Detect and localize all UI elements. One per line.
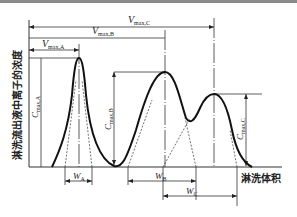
chromatogram-diagram: Vmax,C Vmax,B Vmax,A Cmax,A Cmax,B Cmax,… — [0, 0, 297, 217]
axes — [29, 20, 282, 167]
c-max-b-label: Cmax,B — [103, 108, 114, 130]
c-max-a-label: Cmax,A — [30, 95, 41, 118]
c-max-c-label: Cmax,C — [235, 118, 246, 140]
x-axis-label: 淋洗体积 — [241, 172, 281, 184]
w-a-label: WA — [73, 171, 86, 182]
elution-curve — [52, 58, 252, 167]
v-max-a-label: Vmax,A — [42, 38, 65, 50]
v-max-c-label: Vmax,C — [128, 14, 150, 26]
y-axis-label: 淋洗流出液中离子的浓度 — [11, 49, 23, 160]
w-dimensions — [65, 167, 237, 206]
w-b-label: WB — [155, 171, 167, 182]
v-max-dimensions — [29, 18, 214, 167]
